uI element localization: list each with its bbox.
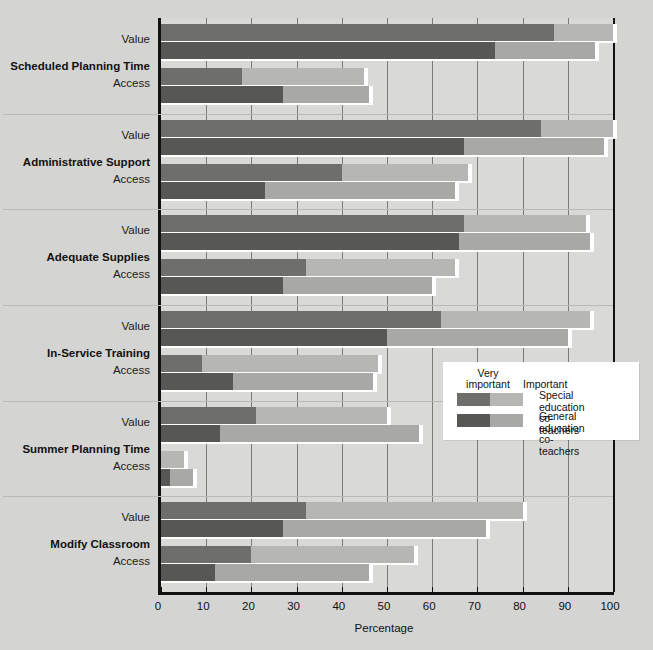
bar-group-in-service-training-value [161, 311, 613, 347]
x-tick-10 [206, 587, 207, 595]
x-tick-50 [387, 587, 388, 595]
segment-important [541, 120, 613, 137]
segment-very-important [161, 329, 387, 346]
x-tick-label-100: 100 [590, 600, 630, 612]
legend-label-line1: General education [539, 411, 585, 434]
segment-important [283, 277, 432, 294]
x-tick-label-70: 70 [454, 600, 494, 612]
y-label-value: Value [0, 129, 158, 141]
segment-very-important [161, 68, 242, 85]
segment-very-important [161, 311, 441, 328]
segment-very-important [161, 564, 215, 581]
category-label: In-Service Training [0, 347, 158, 359]
segment-very-important [161, 138, 464, 155]
segment-important [170, 469, 193, 486]
bar-general-education [161, 233, 590, 250]
segment-important [387, 329, 568, 346]
segment-important [202, 355, 378, 372]
segment-important [495, 42, 594, 59]
segment-very-important [161, 164, 342, 181]
segment-important [161, 451, 184, 468]
segment-very-important [161, 182, 265, 199]
x-tick-label-20: 20 [228, 600, 268, 612]
bar-general-education [161, 277, 432, 294]
bar-general-education [161, 425, 419, 442]
y-label-access: Access [0, 460, 158, 472]
x-tick-40 [342, 587, 343, 595]
x-tick-label-50: 50 [364, 600, 404, 612]
x-tick-label-30: 30 [274, 600, 314, 612]
segment-important [233, 373, 373, 390]
bar-special-education [161, 311, 590, 328]
bar-special-education [161, 407, 387, 424]
x-tick-80 [523, 587, 524, 595]
bar-special-education [161, 24, 613, 41]
bar-special-education [161, 259, 455, 276]
category-label: Modify Classroom [0, 538, 158, 550]
segment-very-important [161, 215, 464, 232]
segment-very-important [161, 520, 283, 537]
bar-general-education [161, 329, 568, 346]
bar-general-education [161, 86, 369, 103]
bar-general-education [161, 564, 369, 581]
group-separator [3, 305, 613, 306]
segment-important [441, 311, 590, 328]
legend-swatch-important [490, 414, 523, 427]
segment-important [256, 407, 387, 424]
segment-very-important [161, 373, 233, 390]
segment-important [283, 86, 369, 103]
x-tick-30 [297, 587, 298, 595]
bar-special-education [161, 502, 523, 519]
x-tick-60 [432, 587, 433, 595]
bar-general-education [161, 182, 455, 199]
segment-important [342, 164, 469, 181]
group-separator [3, 114, 613, 115]
category-label: Administrative Support [0, 156, 158, 168]
segment-very-important [161, 86, 283, 103]
segment-important [459, 233, 590, 250]
bar-special-education [161, 164, 468, 181]
grid-line-100 [613, 18, 615, 592]
segment-important [265, 182, 455, 199]
bar-special-education [161, 215, 586, 232]
bar-group-administrative-support-value [161, 120, 613, 156]
bar-group-adequate-supplies-access [161, 259, 613, 295]
x-tick-20 [251, 587, 252, 595]
bar-special-education [161, 68, 364, 85]
legend-header-very-line2: important [457, 379, 519, 390]
bar-special-education [161, 546, 414, 563]
chart-legend: Very important Important Special educati… [443, 362, 639, 440]
bar-group-adequate-supplies-value [161, 215, 613, 251]
x-tick-label-0: 0 [138, 600, 178, 612]
segment-important [251, 546, 414, 563]
plot-area [158, 18, 613, 595]
segment-important [464, 138, 604, 155]
x-axis-title: Percentage [158, 622, 610, 634]
segment-important [464, 215, 586, 232]
segment-important [283, 520, 486, 537]
bar-general-education [161, 520, 486, 537]
category-label: Scheduled Planning Time [0, 60, 158, 72]
y-label-access: Access [0, 364, 158, 376]
bar-group-modify-classroom-value [161, 502, 613, 538]
bar-special-education [161, 355, 378, 372]
chart-canvas: ValueAccessScheduled Planning TimeValueA… [0, 0, 653, 650]
segment-important [215, 564, 369, 581]
segment-important [306, 259, 455, 276]
legend-header-very-important: Very important [457, 368, 519, 390]
x-tick-label-40: 40 [319, 600, 359, 612]
x-tick-label-10: 10 [183, 600, 223, 612]
bar-special-education [161, 451, 184, 468]
bar-group-administrative-support-access [161, 164, 613, 200]
segment-important [242, 68, 364, 85]
bar-general-education [161, 42, 595, 59]
segment-very-important [161, 425, 220, 442]
y-label-access: Access [0, 173, 158, 185]
segment-important [554, 24, 613, 41]
category-label: Summer Planning Time [0, 443, 158, 455]
segment-very-important [161, 469, 170, 486]
segment-very-important [161, 120, 541, 137]
legend-swatch-very-important [457, 414, 490, 427]
segment-very-important [161, 24, 554, 41]
segment-very-important [161, 259, 306, 276]
